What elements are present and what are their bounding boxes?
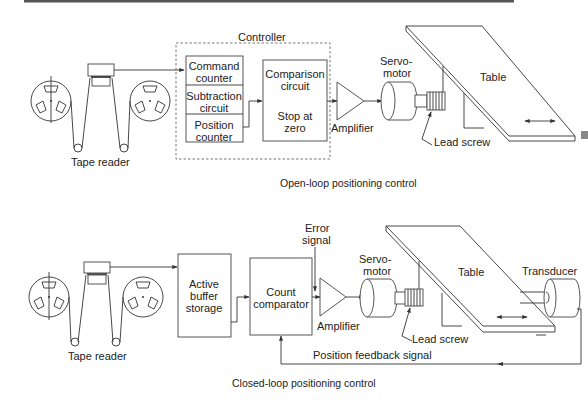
feedback-label: Position feedback signal <box>313 349 432 361</box>
svg-text:Count: Count <box>266 286 295 298</box>
svg-text:counter: counter <box>196 72 233 84</box>
tape-reader-icon <box>31 64 170 152</box>
amplifier-icon <box>337 82 364 120</box>
servo-motor-icon <box>360 279 423 317</box>
lead-screw-label: Lead screw <box>412 333 468 345</box>
open-loop-caption: Open-loop positioning control <box>280 177 417 189</box>
svg-text:Stop at: Stop at <box>278 110 313 122</box>
closed-loop-section: Tape reader Active buffer storage Count … <box>29 222 581 389</box>
svg-text:Transducer: Transducer <box>522 265 578 277</box>
svg-text:Table: Table <box>458 266 484 278</box>
svg-text:signal: signal <box>302 234 331 246</box>
svg-text:Table: Table <box>480 71 506 83</box>
svg-text:storage: storage <box>186 302 223 314</box>
position-counter-label: Position <box>194 119 233 131</box>
svg-text:Servo-: Servo- <box>359 253 392 265</box>
servo-motor-icon <box>381 82 445 120</box>
svg-text:motor: motor <box>383 67 411 79</box>
top-rule <box>24 0 514 3</box>
positioning-control-diagram: Tape reader Controller Command counter S… <box>0 0 588 407</box>
svg-text:counter: counter <box>196 131 233 143</box>
controller-label: Controller <box>238 31 286 43</box>
svg-text:zero: zero <box>284 122 305 134</box>
subtraction-circuit-label: Subtraction <box>186 90 242 102</box>
lead-screw-label: Lead screw <box>434 136 490 148</box>
open-loop-section: Tape reader Controller Command counter S… <box>31 26 588 189</box>
amplifier-icon <box>320 278 346 316</box>
svg-text:circuit: circuit <box>200 102 229 114</box>
svg-text:Servo-: Servo- <box>380 55 413 67</box>
svg-text:comparator: comparator <box>253 298 309 310</box>
tape-reader-label: Tape reader <box>68 350 127 362</box>
svg-text:buffer: buffer <box>190 290 218 302</box>
svg-text:circuit: circuit <box>281 80 310 92</box>
svg-text:Error: Error <box>305 222 330 234</box>
table-icon <box>406 26 588 141</box>
closed-loop-caption: Closed-loop positioning control <box>232 377 376 389</box>
svg-text:Amplifier: Amplifier <box>331 122 374 134</box>
tape-reader-icon <box>29 262 163 346</box>
command-counter-label: Command <box>189 60 240 72</box>
svg-text:Active: Active <box>189 278 219 290</box>
svg-text:Comparison: Comparison <box>265 68 324 80</box>
svg-text:motor: motor <box>363 265 391 277</box>
svg-text:Amplifier: Amplifier <box>317 320 360 332</box>
table-icon <box>386 226 555 335</box>
tape-reader-label: Tape reader <box>71 156 130 168</box>
